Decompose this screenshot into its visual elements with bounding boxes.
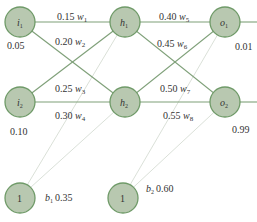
svg-text:1: 1 xyxy=(17,193,22,204)
input-value-i1: 0.05 xyxy=(7,40,25,51)
bias-node-b1: 1 xyxy=(5,183,35,213)
node-o1: o1 xyxy=(210,7,240,37)
svg-text:1: 1 xyxy=(120,193,125,204)
target-value-o1: 0.01 xyxy=(235,41,253,52)
node-i2: i2 xyxy=(5,87,35,117)
weight-label-w4: 0.30 w4 xyxy=(55,110,86,123)
weight-label-w7: 0.50 w7 xyxy=(160,83,191,96)
node-o2: o2 xyxy=(210,87,240,117)
node-h1: h1 xyxy=(110,7,140,37)
node-h2: h2 xyxy=(110,87,140,117)
bias-node-b2: 1 xyxy=(108,183,138,213)
bias-label-b1: b10.35 xyxy=(45,192,73,204)
bias-label-b2: b20.60 xyxy=(146,183,174,195)
weight-label-w2: 0.20 w2 xyxy=(55,36,86,49)
node-i1: i1 xyxy=(5,7,35,37)
target-value-o2: 0.99 xyxy=(232,124,250,135)
input-value-i2: 0.10 xyxy=(10,126,28,137)
neural-network-diagram: 0.15 w1 0.20 w2 0.25 w3 0.30 w4 0.40 w5 … xyxy=(0,0,257,222)
weight-label-w6: 0.45 w6 xyxy=(157,38,188,51)
weight-label-w3: 0.25 w3 xyxy=(55,83,86,96)
